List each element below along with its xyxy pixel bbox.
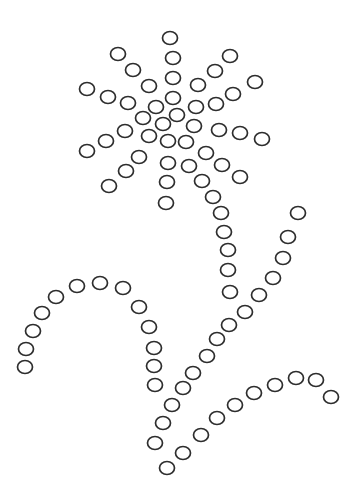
- background: [0, 0, 355, 495]
- dot-flower-picture: [0, 0, 355, 495]
